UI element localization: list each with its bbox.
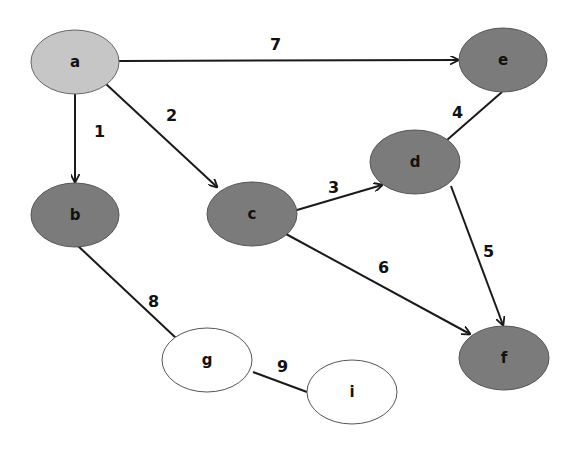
node-a[interactable]: a — [31, 30, 119, 94]
edge-c-f — [286, 234, 470, 334]
node-label-c: c — [248, 205, 257, 223]
edge-label-a-e: 7 — [270, 35, 281, 54]
node-e[interactable]: e — [459, 28, 547, 92]
node-label-e: e — [498, 51, 508, 69]
edge-label-c-f: 6 — [378, 258, 389, 277]
edge-label-d-f: 5 — [483, 242, 494, 261]
edge-a-c — [106, 84, 217, 187]
node-label-f: f — [501, 349, 508, 367]
node-c[interactable]: c — [207, 182, 297, 246]
node-g[interactable]: g — [162, 328, 252, 392]
node-label-g: g — [202, 351, 213, 369]
edge-label-g-i: 9 — [277, 357, 288, 376]
node-label-a: a — [70, 53, 80, 71]
node-b[interactable]: b — [31, 183, 119, 247]
node-label-b: b — [70, 206, 81, 224]
edge-label-c-d: 3 — [328, 178, 339, 197]
node-d[interactable]: d — [370, 130, 460, 194]
graph-diagram: 1 2 3 4 5 6 7 8 9 a b c — [0, 0, 578, 452]
edge-c-d — [297, 185, 382, 210]
edge-label-a-b: 1 — [94, 122, 105, 141]
node-label-d: d — [410, 153, 421, 171]
edge-b-g — [77, 245, 176, 338]
edge-d-f — [451, 186, 503, 325]
edge-label-b-g: 8 — [148, 292, 159, 311]
node-label-i: i — [349, 383, 354, 401]
node-i[interactable]: i — [307, 360, 397, 424]
edge-label-a-c: 2 — [166, 106, 177, 125]
edge-a-e — [119, 60, 458, 61]
node-f[interactable]: f — [459, 326, 549, 390]
graph-svg: 1 2 3 4 5 6 7 8 9 a b c — [0, 0, 578, 452]
edge-label-d-e: 4 — [452, 103, 463, 122]
